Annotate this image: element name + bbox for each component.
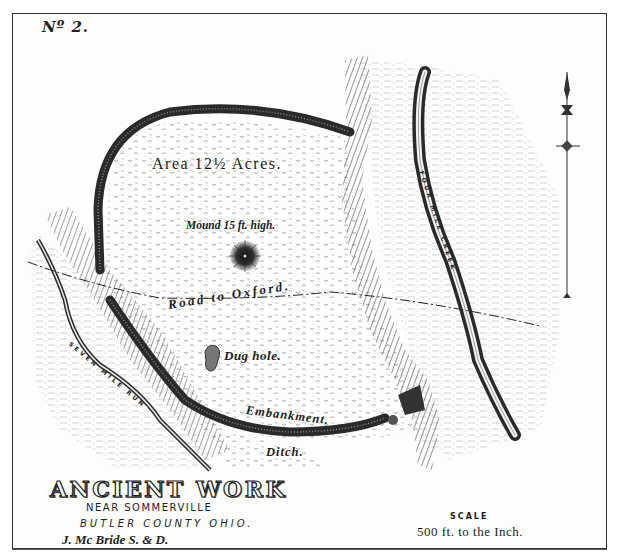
map-title: ANCIENT WORK [50, 476, 287, 502]
map-subtitle-county: BUTLER COUNTY OHIO. [80, 518, 253, 529]
map-author: J. Mc Bride S. & D. [62, 532, 168, 548]
mound-label: Mound 15 ft. high. [186, 219, 275, 231]
scale-title: SCALE [450, 512, 488, 521]
map-subtitle-near: NEAR SOMMERVILLE [86, 502, 212, 513]
plate-number: Nº 2. [42, 18, 89, 36]
dug-hole-label: Dug hole. [224, 348, 281, 364]
ditch-label: Ditch. [266, 445, 304, 460]
scale-value: 500 ft. to the Inch. [417, 524, 523, 540]
area-label: Area 12½ Acres. [152, 155, 282, 173]
gateway-mound [388, 415, 398, 425]
